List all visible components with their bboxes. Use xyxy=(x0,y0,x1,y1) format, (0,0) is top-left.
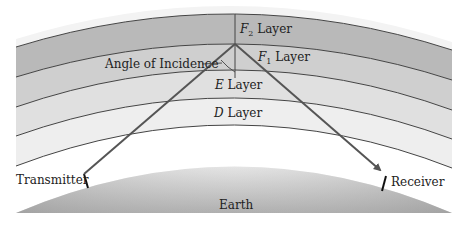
receiver-label: Receiver xyxy=(391,175,445,189)
f1-layer-label: F1 Layer xyxy=(257,50,310,66)
angle-of-incidence-label: Angle of Incidence xyxy=(104,57,219,71)
ionosphere-diagram: F2 Layer F1 Layer E Layer D Layer Angle … xyxy=(0,0,468,227)
e-layer-label: E Layer xyxy=(214,78,263,92)
earth-label: Earth xyxy=(219,198,253,212)
f2-layer-label: F2 Layer xyxy=(239,22,292,38)
transmitter-label: Transmitter xyxy=(16,173,89,187)
d-layer-label: D Layer xyxy=(213,106,262,120)
